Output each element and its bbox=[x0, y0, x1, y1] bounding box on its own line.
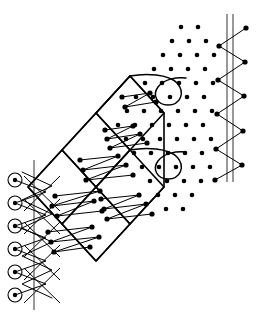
scan-vertex-dot bbox=[143, 201, 148, 206]
scan-vertex-dot bbox=[123, 162, 128, 167]
right-zigzag-vertex bbox=[216, 43, 221, 48]
lattice-dot bbox=[170, 39, 175, 44]
boundary-ring-core bbox=[13, 293, 17, 297]
lattice-dot bbox=[149, 151, 154, 156]
right-zigzag-vertex bbox=[242, 59, 247, 64]
right-zigzag-vertex bbox=[243, 25, 248, 30]
lattice-dot bbox=[203, 67, 208, 72]
lattice-dot bbox=[142, 109, 147, 114]
lattice-dot bbox=[201, 123, 206, 128]
scan-vertex-dot bbox=[153, 99, 158, 104]
lattice-dot bbox=[148, 179, 153, 184]
lattice-dot bbox=[212, 53, 217, 58]
right-zigzag-vertex bbox=[239, 162, 244, 167]
scan-vertex-dot bbox=[49, 203, 54, 208]
lattice-dot bbox=[157, 165, 162, 170]
lattice-dot bbox=[176, 109, 181, 114]
scan-vertex-dot bbox=[77, 157, 82, 162]
right-zigzag-vertex bbox=[241, 93, 246, 98]
lattice-dot bbox=[152, 67, 157, 72]
lattice-dot bbox=[181, 207, 186, 212]
lattice-dot bbox=[192, 137, 197, 142]
scan-vertex-dot bbox=[107, 145, 112, 150]
lattice-dot bbox=[173, 193, 178, 198]
lattice-dot bbox=[143, 81, 148, 86]
lattice-dot bbox=[210, 109, 215, 114]
lattice-dot bbox=[116, 123, 121, 128]
lattice-dot bbox=[211, 81, 216, 86]
boundary-ring-core bbox=[13, 201, 17, 205]
scan-vertex-dot bbox=[87, 244, 92, 249]
scan-vertex-dot bbox=[99, 208, 104, 213]
boundary-ring-core bbox=[13, 224, 17, 228]
lattice-dot bbox=[204, 39, 209, 44]
scan-vertex-dot bbox=[80, 167, 85, 172]
lattice-dot bbox=[178, 53, 183, 58]
lattice-dot bbox=[209, 137, 214, 142]
diagram-canvas bbox=[0, 0, 256, 321]
lattice-dot bbox=[191, 165, 196, 170]
scan-vertex-dot bbox=[119, 94, 124, 99]
scan-vertex-dot bbox=[98, 196, 103, 201]
lattice-dot bbox=[199, 179, 204, 184]
lattice-dot bbox=[168, 95, 173, 100]
right-zigzag-vertex bbox=[214, 111, 219, 116]
scan-vertex-dot bbox=[104, 136, 109, 141]
lattice-dot bbox=[194, 81, 199, 86]
lattice-dot bbox=[200, 151, 205, 156]
scan-vertex-dot bbox=[130, 172, 135, 177]
scan-vertex-dot bbox=[91, 198, 96, 203]
lattice-dot bbox=[164, 207, 169, 212]
lattice-dot bbox=[174, 165, 179, 170]
lattice-dot bbox=[193, 109, 198, 114]
figure-root bbox=[0, 0, 256, 321]
lattice-dot bbox=[185, 95, 190, 100]
lattice-dot bbox=[161, 53, 166, 58]
scan-vertex-dot bbox=[115, 153, 120, 158]
scan-vertex-dot bbox=[52, 193, 57, 198]
right-zigzag-vertex bbox=[240, 128, 245, 133]
scan-vertex-dot bbox=[54, 213, 59, 218]
scan-vertex-dot bbox=[149, 211, 154, 216]
scan-vertex-dot bbox=[102, 127, 107, 132]
lattice-dot bbox=[184, 123, 189, 128]
lattice-dot bbox=[167, 123, 172, 128]
scan-vertex-dot bbox=[130, 123, 135, 128]
lattice-dot bbox=[202, 95, 207, 100]
lattice-dot bbox=[158, 137, 163, 142]
lattice-dot bbox=[175, 137, 180, 142]
scan-vertex-dot bbox=[89, 224, 94, 229]
scan-vertex-dot bbox=[144, 140, 149, 145]
right-zigzag-vertex bbox=[212, 177, 217, 182]
lattice-dot bbox=[208, 165, 213, 170]
lattice-dot bbox=[195, 53, 200, 58]
lattice-dot bbox=[190, 193, 195, 198]
boundary-ring-core bbox=[13, 178, 17, 182]
boundary-ring-core bbox=[13, 247, 17, 251]
right-zigzag-vertex bbox=[215, 77, 220, 82]
scan-vertex-dot bbox=[104, 216, 109, 221]
scan-vertex-dot bbox=[147, 90, 152, 95]
scan-vertex-dot bbox=[96, 234, 101, 239]
right-zigzag-vertex bbox=[213, 146, 218, 151]
scan-vertex-dot bbox=[51, 249, 56, 254]
lattice-dot bbox=[196, 25, 201, 30]
scan-vertex-dot bbox=[83, 177, 88, 182]
scan-vertex-dot bbox=[136, 192, 141, 197]
scan-vertex-dot bbox=[122, 104, 127, 109]
scan-vertex-dot bbox=[97, 188, 102, 193]
lattice-dot bbox=[179, 25, 184, 30]
lattice-dot bbox=[186, 67, 191, 72]
boundary-ring-core bbox=[13, 270, 17, 274]
lattice-dot bbox=[169, 67, 174, 72]
scan-vertex-dot bbox=[137, 131, 142, 136]
scan-vertex-dot bbox=[45, 229, 50, 234]
scan-vertex-dot bbox=[48, 239, 53, 244]
lattice-dot bbox=[187, 39, 192, 44]
lattice-dot bbox=[182, 179, 187, 184]
